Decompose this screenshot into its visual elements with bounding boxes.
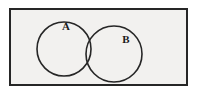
venn-diagram-figure: A B: [0, 0, 198, 96]
set-b-label: B: [122, 33, 130, 45]
venn-diagram-canvas: A B: [0, 0, 198, 96]
set-a-label: A: [62, 20, 70, 32]
